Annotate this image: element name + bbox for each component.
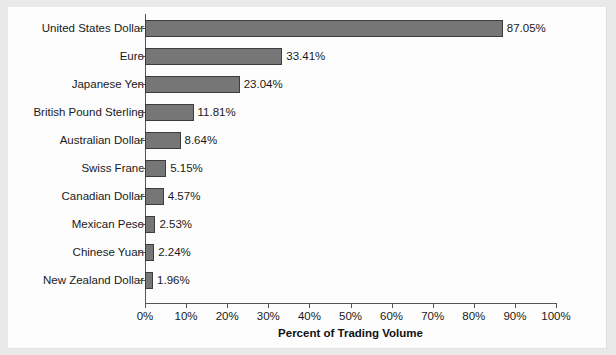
bar-row: Euro33.41% [8, 42, 606, 70]
bar-row: Swiss Franc5.15% [8, 154, 606, 182]
bar-fill [145, 272, 153, 289]
bar-value-label: 2.53% [159, 216, 192, 233]
bar-chart: United States Dollar87.05%Euro33.41%Japa… [8, 7, 606, 348]
category-label: Canadian Dollar [62, 182, 144, 210]
x-axis-title: Percent of Trading Volume [145, 327, 556, 339]
bar-value-label: 8.64% [185, 132, 218, 149]
bar[interactable] [145, 272, 153, 289]
bar-value-label: 2.24% [158, 244, 191, 261]
bar[interactable] [145, 188, 164, 205]
bar-row: New Zealand Dollar1.96% [8, 266, 606, 294]
bar[interactable] [145, 76, 240, 93]
bar[interactable] [145, 48, 282, 65]
bar-value-label: 87.05% [507, 20, 546, 37]
bar-fill [145, 244, 154, 261]
bar[interactable] [145, 20, 503, 37]
bar-fill [145, 20, 503, 37]
bar[interactable] [145, 216, 155, 233]
bar-value-label: 11.81% [198, 104, 236, 121]
bar-value-label: 23.04% [244, 76, 283, 93]
category-label: Mexican Peso [72, 210, 144, 238]
x-axis-tick [474, 303, 475, 308]
bar-row: Australian Dollar8.64% [8, 126, 606, 154]
x-axis-tick [556, 303, 557, 308]
category-label: British Pound Sterling [33, 98, 144, 126]
x-axis-tick [227, 303, 228, 308]
bar-fill [145, 76, 240, 93]
bar[interactable] [145, 160, 166, 177]
bar[interactable] [145, 244, 154, 261]
category-label: Chinese Yuan [73, 238, 144, 266]
x-axis-tick [351, 303, 352, 308]
x-axis-tick [515, 303, 516, 308]
bar[interactable] [145, 104, 194, 121]
x-axis-tick-label: 100% [526, 310, 586, 322]
chart-paper: United States Dollar87.05%Euro33.41%Japa… [8, 7, 607, 349]
bar-fill [145, 216, 155, 233]
x-axis-tick [433, 303, 434, 308]
bar-row: Japanese Yen23.04% [8, 70, 606, 98]
bar-row: Chinese Yuan2.24% [8, 238, 606, 266]
bar-fill [145, 160, 166, 177]
page-background: United States Dollar87.05%Euro33.41%Japa… [0, 0, 616, 355]
category-label: United States Dollar [42, 14, 144, 42]
bar-row: Canadian Dollar4.57% [8, 182, 606, 210]
bar-row: Mexican Peso2.53% [8, 210, 606, 238]
bar-fill [145, 104, 194, 121]
bar-row: United States Dollar87.05% [8, 14, 606, 42]
x-axis-tick [392, 303, 393, 308]
category-label: Australian Dollar [60, 126, 144, 154]
bar-fill [145, 48, 282, 65]
bar[interactable] [145, 132, 181, 149]
x-axis-tick [309, 303, 310, 308]
bar-value-label: 1.96% [157, 272, 190, 289]
category-label: New Zealand Dollar [43, 266, 144, 294]
category-label: Japanese Yen [72, 70, 144, 98]
x-axis-tick [186, 303, 187, 308]
bar-fill [145, 188, 164, 205]
x-axis-tick [268, 303, 269, 308]
bar-row: British Pound Sterling11.81% [8, 98, 606, 126]
bar-fill [145, 132, 181, 149]
bar-value-label: 4.57% [168, 188, 201, 205]
category-label: Swiss Franc [81, 154, 144, 182]
bar-value-label: 5.15% [170, 160, 203, 177]
x-axis-tick [145, 303, 146, 308]
bar-value-label: 33.41% [286, 48, 325, 65]
